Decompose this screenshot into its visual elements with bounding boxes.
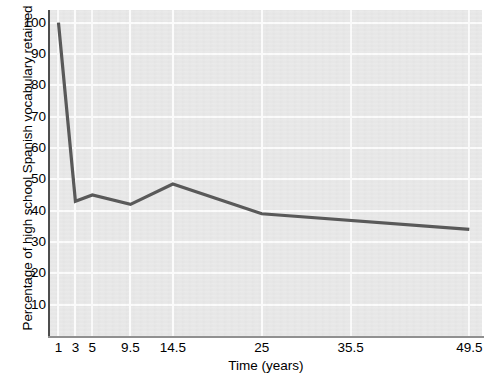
- y-tick-label-70: 70: [10, 110, 46, 124]
- y-tick-label-100: 100: [10, 16, 46, 30]
- y-tick-label-90: 90: [10, 47, 46, 61]
- x-tick-label-49.5: 49.5: [456, 340, 482, 356]
- x-axis-title: Time (years): [50, 358, 482, 373]
- y-axis-tick-labels: 102030405060708090100: [10, 0, 46, 378]
- y-axis-line: [48, 10, 50, 338]
- x-tick-label-5: 5: [89, 340, 97, 356]
- plot-area: [50, 10, 482, 336]
- y-tick-label-40: 40: [10, 204, 46, 218]
- x-axis-tick-labels: 1359.514.52535.549.5: [0, 340, 499, 360]
- x-tick-label-25: 25: [254, 340, 269, 356]
- y-tick-label-20: 20: [10, 267, 46, 281]
- y-tick-label-30: 30: [10, 235, 46, 249]
- data-series-line: [50, 10, 482, 336]
- line-chart: Percentage of high school Spanish vocabu…: [0, 0, 499, 378]
- x-tick-label-35.5: 35.5: [338, 340, 364, 356]
- y-tick-label-80: 80: [10, 78, 46, 92]
- y-tick-label-50: 50: [10, 173, 46, 187]
- y-tick-label-10: 10: [10, 298, 46, 312]
- x-tick-label-1: 1: [55, 340, 63, 356]
- x-tick-label-14.5: 14.5: [160, 340, 186, 356]
- x-tick-label-9.5: 9.5: [121, 340, 140, 356]
- y-tick-label-60: 60: [10, 141, 46, 155]
- x-axis-line: [48, 336, 484, 338]
- x-tick-label-3: 3: [72, 340, 80, 356]
